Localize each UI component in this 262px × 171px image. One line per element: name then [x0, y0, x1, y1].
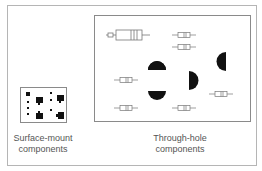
through-hole-caption-line2: components [140, 144, 220, 155]
surface-mount-caption-line2: components [12, 144, 74, 155]
smd-components [26, 92, 64, 119]
small-resistors [114, 33, 233, 111]
surface-mount-caption-line1: Surface-mount [12, 133, 74, 144]
large-resistor [106, 30, 150, 40]
surface-mount-caption: Surface-mount components [12, 133, 74, 155]
transistors [148, 52, 226, 100]
through-hole-caption: Through-hole components [140, 133, 220, 155]
through-hole-caption-line1: Through-hole [140, 133, 220, 144]
